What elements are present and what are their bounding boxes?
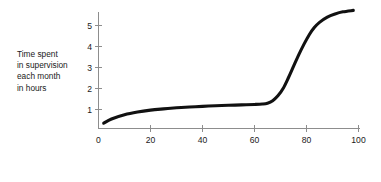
y-tick-label-5: 5 <box>87 21 92 31</box>
y-tick-label-4: 4 <box>87 42 92 52</box>
plot-area: 5 4 3 2 1 0 20 40 60 80 100 <box>0 0 381 182</box>
x-tick-label-0: 0 <box>96 135 101 145</box>
chart-figure: Time spent in supervision each month in … <box>0 0 381 182</box>
y-tick-label-1: 1 <box>87 105 92 115</box>
x-tick-label-20: 20 <box>146 135 156 145</box>
x-tick-label-60: 60 <box>250 135 260 145</box>
y-tick-labels: 5 4 3 2 1 <box>87 21 92 115</box>
x-tick-label-100: 100 <box>351 135 366 145</box>
y-tick-label-2: 2 <box>87 84 92 94</box>
supervision-time-curve <box>104 10 354 123</box>
x-tick-labels: 0 20 40 60 80 100 <box>96 135 366 145</box>
y-tick-label-3: 3 <box>87 63 92 73</box>
x-tick-label-80: 80 <box>302 135 312 145</box>
x-tick-label-40: 40 <box>198 135 208 145</box>
